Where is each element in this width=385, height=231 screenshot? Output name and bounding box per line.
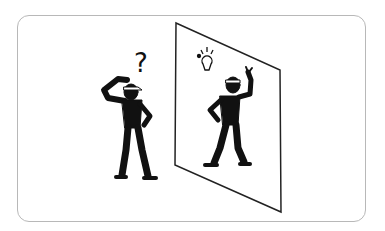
question-mark: ? xyxy=(134,48,148,78)
confused-man-figure xyxy=(104,79,156,178)
mirror-scene: ? xyxy=(0,0,385,231)
